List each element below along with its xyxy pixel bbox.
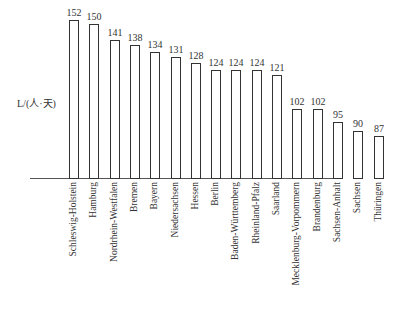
bar [272, 75, 282, 179]
bar [110, 40, 120, 179]
category-label: Berlin [210, 182, 220, 206]
category-label: Thüringen [373, 182, 383, 222]
category-label: Sachsen-Anhalt [332, 182, 342, 242]
bar [353, 131, 363, 179]
bar [191, 63, 201, 179]
category-label: Rheinland-Pfalz [251, 182, 261, 244]
bar [252, 70, 262, 179]
bar [333, 122, 343, 179]
category-label: Bayern [149, 182, 159, 209]
category-label: Sachsen [352, 182, 362, 213]
bar [150, 52, 160, 179]
category-label: Mecklenburg-Vorpommern [291, 182, 301, 286]
bar [130, 45, 140, 179]
data-label: 150 [79, 11, 109, 22]
bar [69, 20, 79, 179]
category-label: Nordrhein-Westfalen [109, 182, 119, 262]
data-label: 121 [262, 62, 292, 73]
category-label: Bremen [129, 182, 139, 212]
data-label: 87 [364, 123, 394, 134]
category-label: Schleswig-Holstein [68, 182, 78, 256]
bar [171, 57, 181, 179]
bar [231, 70, 241, 179]
bar [374, 136, 384, 179]
bar [89, 24, 99, 179]
bar-chart: L/(人·天) 152Schleswig-Holstein150Hamburg1… [0, 0, 411, 309]
category-label: Niedersachsen [170, 182, 180, 237]
category-label: Hamburg [88, 182, 98, 218]
data-label: 102 [303, 96, 333, 107]
category-label: Hessen [190, 182, 200, 209]
y-axis-label: L/(人·天) [17, 95, 56, 110]
bar [313, 109, 323, 179]
category-label: Baden-Württemberg [230, 182, 240, 260]
category-label: Saarland [271, 182, 281, 215]
bar [211, 70, 221, 179]
bar [292, 109, 302, 179]
category-label: Brandenburg [312, 182, 322, 231]
